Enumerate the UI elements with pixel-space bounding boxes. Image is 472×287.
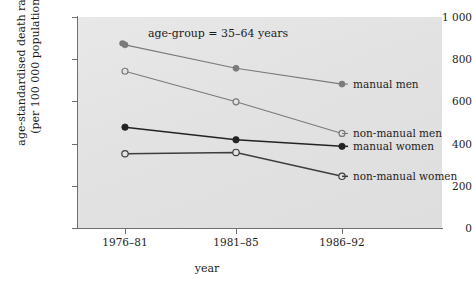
age-group-annotation: age-group = 35–64 years [148,27,288,40]
y-tick-label-1000: 1 000 [402,12,472,23]
plot-area [78,17,442,228]
y-tick-800 [72,59,78,60]
series-label-manual-women: manual women [353,140,434,152]
x-axis-line [77,228,443,229]
x-tick-0 [125,228,126,234]
x-tick-1 [236,228,237,234]
y-tick-400 [72,144,78,145]
y-tick-label-800: 800 [402,54,472,65]
x-tick-2 [342,228,343,234]
y-axis-label-line2: (per 100 000 population) [29,0,43,159]
series-label-non-manual-women: non-manual women [353,170,457,182]
x-axis-label-text: year [195,262,220,275]
series-label-non-manual-men: non-manual men [353,127,442,139]
y-tick-600 [72,101,78,102]
y-tick-0 [72,228,78,229]
y-axis-line [77,16,78,229]
x-axis-label: year [0,262,472,275]
y-axis-label: age-standardised death rates (per 100 00… [15,0,43,159]
y-tick-200 [72,186,78,187]
y-tick-label-600: 600 [402,96,472,107]
y-tick-label-0: 0 [402,223,472,234]
y-axis-label-line1: age-standardised death rates [15,0,29,159]
y-tick-1000 [72,17,78,18]
series-label-manual-men: manual men [353,78,419,90]
chart-figure: 02004006008001 000 1976–811981–851986–92… [0,0,472,287]
x-tick-label-197681: 1976–81 [102,237,147,248]
x-tick-label-198185: 1981–85 [213,237,258,248]
plot-background [78,17,442,228]
x-tick-label-198692: 1986–92 [319,237,364,248]
